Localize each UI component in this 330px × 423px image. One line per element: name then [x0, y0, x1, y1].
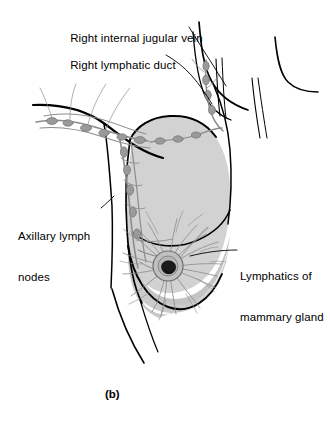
label-line: nodes [18, 271, 90, 285]
nipple [162, 261, 176, 274]
mammary-lymphatic-twig [210, 261, 226, 262]
lymph-node [124, 165, 131, 175]
axilla-curve [104, 124, 112, 288]
lymph-node [130, 207, 137, 217]
lymph-node [191, 132, 200, 138]
lymph-node [173, 136, 183, 142]
label-line: mammary gland [240, 311, 324, 325]
axillary-vessel-arch [275, 37, 318, 92]
lymph-node [120, 147, 127, 157]
anatomical-figure: Right internal jugular vein Right lympha… [0, 0, 330, 423]
label-line: Axillary lymph [18, 230, 90, 244]
vessel-lines-group [193, 32, 318, 138]
figure-caption: (b) [105, 388, 120, 400]
lymph-node [63, 120, 73, 126]
label-line: Right lymphatic duct [70, 59, 176, 71]
nipple-areola-group [153, 251, 183, 281]
lymph-node [99, 130, 109, 137]
lymph-node [203, 61, 209, 70]
lymph-node [135, 137, 146, 144]
label-line: Right internal jugular vein [70, 32, 202, 44]
label-right-lymphatic-duct: Right lymphatic duct [57, 45, 176, 86]
lateral-vessel-pair-right [258, 78, 267, 138]
lymph-node [47, 118, 58, 125]
lymph-node [209, 106, 216, 115]
label-axillary-lymph-nodes: Axillary lymph nodes [18, 203, 90, 311]
label-line: Lymphatics of [240, 270, 324, 284]
lymph-node [81, 125, 92, 132]
lymph-node [126, 185, 133, 195]
lymphatic-filament [40, 88, 52, 118]
lymph-node [155, 138, 165, 144]
label-lymphatics-of-mammary-gland: Lymphatics of mammary gland [240, 243, 324, 351]
lymph-node [203, 75, 210, 85]
lymphatic-filament [106, 88, 130, 129]
lymph-node [117, 134, 127, 140]
